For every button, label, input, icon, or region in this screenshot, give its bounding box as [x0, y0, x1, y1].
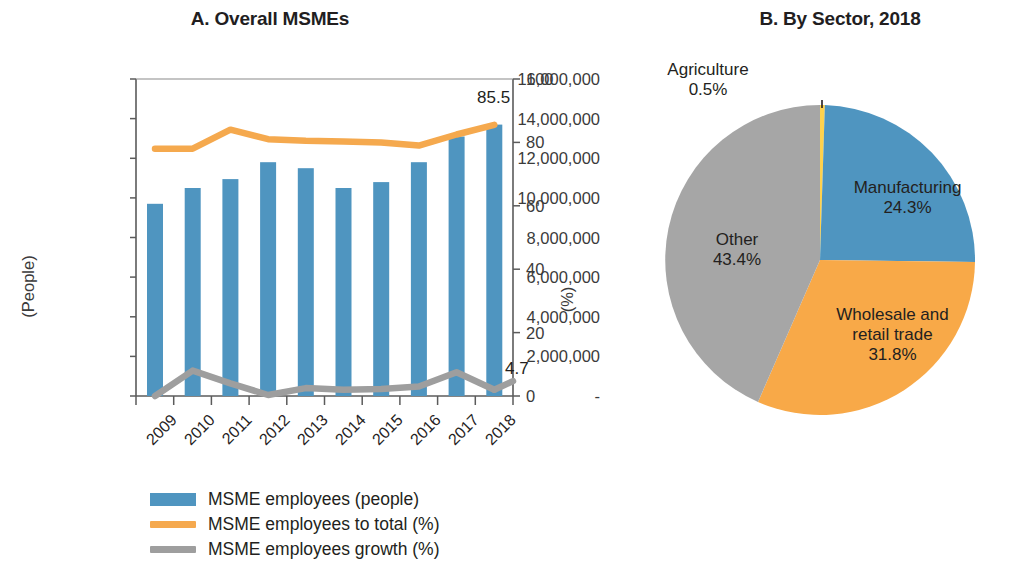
bar-2015: [373, 182, 389, 396]
data-label-growth-2018: 4.7: [505, 359, 529, 379]
y2-tick-label-60: 60: [526, 196, 544, 215]
pie-label-other: Other 43.4%: [682, 230, 792, 270]
pie-label-wholesale-pct: 31.8%: [810, 345, 975, 365]
line-series-msme-share-of-total: [155, 125, 494, 149]
legend-label-share: MSME employees to total (%): [208, 514, 439, 535]
pie-label-wholesale: Wholesale and retail trade 31.8%: [810, 305, 975, 365]
bar-2010: [185, 188, 201, 396]
bar-2011: [222, 179, 238, 396]
y2-tick-label-0: 0: [526, 387, 535, 406]
left-axis-ticks: [130, 79, 136, 396]
panel-by-sector: B. By Sector, 2018 Manufacturing 24.3% W…: [600, 0, 1035, 564]
pie-chart: Manufacturing 24.3% Wholesale and retail…: [660, 100, 980, 420]
y-axis-title: (People): [19, 237, 38, 337]
pie-label-other-name: Other: [682, 230, 792, 250]
pie-label-manufacturing: Manufacturing 24.3%: [820, 178, 995, 218]
legend-swatch-gray-line-icon: [150, 546, 196, 553]
data-label-share-2018: 85.5: [477, 88, 510, 108]
line-series-msme-growth: [155, 371, 494, 396]
y-tick-label-14m: 14,000,000: [472, 109, 600, 128]
panel-b-title: B. By Sector, 2018: [660, 8, 1020, 30]
y-tick-label-8m: 8,000,000: [472, 228, 600, 247]
bar-2016: [411, 162, 427, 396]
bar-2017: [449, 137, 465, 397]
legend-item-share: MSME employees to total (%): [150, 512, 439, 537]
pie-label-wholesale-line1: Wholesale and: [810, 305, 975, 325]
y2-tick-label-40: 40: [526, 260, 544, 279]
chart-legend: MSME employees (people) MSME employees t…: [150, 487, 439, 562]
y-tick-label-zero: -: [472, 387, 600, 406]
y2-tick-label-20: 20: [526, 323, 544, 342]
combo-chart-plot-area: 16,000,000 14,000,000 12,000,000 10,000,…: [0, 62, 600, 407]
panel-a-title: A. Overall MSMEs: [60, 8, 480, 30]
bar-series-msme-employees: [147, 125, 502, 396]
y2-axis-title: (%): [558, 278, 577, 322]
pie-label-other-pct: 43.4%: [682, 250, 792, 270]
bar-2012: [260, 162, 276, 396]
legend-swatch-bar-icon: [150, 493, 196, 506]
y2-tick-label-100: 100: [526, 70, 554, 89]
legend-item-employees: MSME employees (people): [150, 487, 439, 512]
pie-label-wholesale-line2: retail trade: [810, 325, 975, 345]
pie-label-manufacturing-name: Manufacturing: [820, 178, 995, 198]
legend-label-employees: MSME employees (people): [208, 489, 419, 510]
pie-label-manufacturing-pct: 24.3%: [820, 198, 995, 218]
bar-2013: [298, 168, 314, 396]
bar-2014: [336, 188, 352, 396]
legend-swatch-orange-line-icon: [150, 521, 196, 528]
bar-2009: [147, 204, 163, 396]
legend-label-growth: MSME employees growth (%): [208, 539, 439, 560]
panel-overall-msmes: A. Overall MSMEs: [0, 0, 600, 564]
x-axis-ticks: [136, 396, 513, 405]
y2-tick-label-80: 80: [526, 133, 544, 152]
legend-item-growth: MSME employees growth (%): [150, 537, 439, 562]
pie-label-agriculture-pct: 0.5%: [628, 80, 788, 100]
y-tick-label-2m: 2,000,000: [472, 347, 600, 366]
pie-label-agriculture-name: Agriculture: [628, 60, 788, 80]
pie-label-agriculture: Agriculture 0.5%: [628, 60, 788, 100]
